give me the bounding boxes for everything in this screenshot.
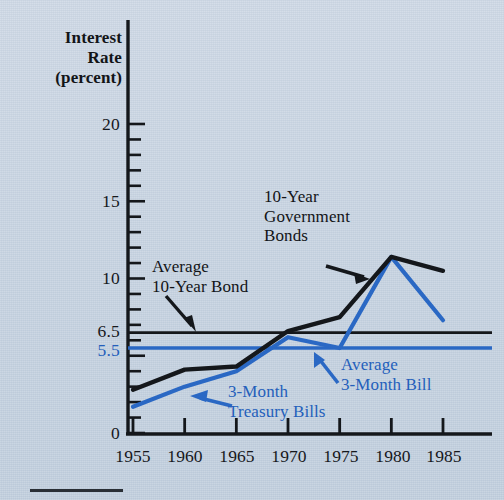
annotation-arrow-bills: [190, 390, 232, 406]
annotation-arrow-average-bond: [166, 296, 196, 332]
annotation-avg-bill-line-2: 3-Month Bill: [341, 375, 501, 395]
annotation-avg-bond-line-2: 10-Year Bond: [152, 277, 337, 297]
annotation-bonds-line-3: Bonds: [264, 226, 434, 246]
annotation-arrow-average-bill: [314, 352, 338, 383]
footer-rule: [30, 489, 123, 492]
annotation-10-year-government-bonds: 10-Year Government Bonds: [264, 187, 434, 246]
interest-rate-line-chart: [0, 0, 504, 500]
annotation-bonds-line-1: 10-Year: [264, 187, 434, 207]
annotation-bills-line-2: Treasury Bills: [228, 402, 388, 422]
annotation-average-10-year-bond: Average 10-Year Bond: [152, 257, 337, 296]
annotation-avg-bill-line-1: Average: [341, 355, 501, 375]
annotation-avg-bond-line-1: Average: [152, 257, 337, 277]
annotation-bonds-line-2: Government: [264, 207, 434, 227]
annotation-average-3-month-bill: Average 3-Month Bill: [341, 355, 501, 394]
